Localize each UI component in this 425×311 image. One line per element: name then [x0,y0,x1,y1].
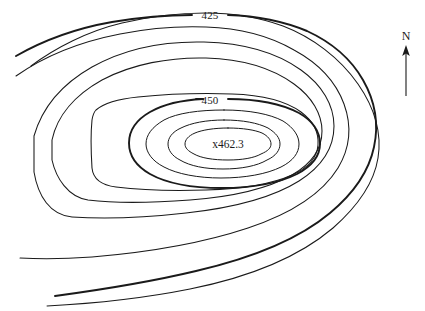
contour-map-canvas: 425 450 x462.3 N [0,0,425,311]
contour-line-425-right [55,15,376,296]
contour-label-450: 450 [201,94,218,106]
contour-map: 425 450 x462.3 N [0,0,425,311]
north-arrow-label: N [402,29,411,43]
spot-height-label: x462.3 [212,138,244,150]
contour-label-425: 425 [201,9,218,21]
contour-line-425-left [16,15,192,56]
north-arrow: N [402,29,411,96]
contour-line-435 [34,42,334,218]
contour-line-445 [91,94,318,191]
contour-line-outer-1 [31,13,379,306]
